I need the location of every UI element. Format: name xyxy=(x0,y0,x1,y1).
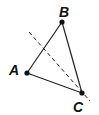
triangle-diagram: B A C xyxy=(0,0,99,115)
label-b: B xyxy=(59,4,69,20)
label-c: C xyxy=(73,99,84,115)
side-ab xyxy=(27,22,62,73)
dashed-bisector-line xyxy=(29,32,90,101)
point-c xyxy=(79,90,84,95)
side-bc xyxy=(62,22,82,93)
side-ac xyxy=(27,73,82,93)
label-a: A xyxy=(8,62,19,78)
point-a xyxy=(24,70,29,75)
point-b xyxy=(59,19,64,24)
